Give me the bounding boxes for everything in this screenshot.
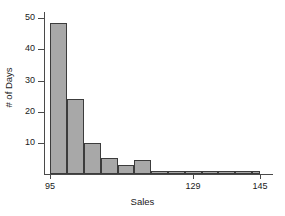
x-axis-line <box>44 174 273 175</box>
y-tick-label: 40 <box>25 43 35 54</box>
histogram-bar <box>151 171 168 174</box>
histogram-bar <box>252 171 260 174</box>
y-axis-tick: 40 <box>38 49 44 50</box>
y-axis-tick: 10 <box>38 143 44 144</box>
y-axis-line <box>44 12 45 175</box>
histogram-bar <box>218 171 235 174</box>
y-tick-label: 10 <box>25 137 35 148</box>
histogram-bar <box>67 99 84 174</box>
histogram-bar <box>84 143 101 174</box>
histogram-bar <box>202 171 219 174</box>
histogram-bar <box>118 165 135 174</box>
x-tick-label: 95 <box>45 181 55 192</box>
x-axis-title: Sales <box>0 196 285 207</box>
histogram-bar <box>168 171 185 174</box>
histogram-figure: 50 40 30 20 10 95 129 145 Sales # of Day… <box>0 0 285 216</box>
y-tick-label: 20 <box>25 106 35 117</box>
histogram-bar <box>134 160 151 174</box>
y-axis-tick: 50 <box>38 18 44 19</box>
y-tick-label: 30 <box>25 75 35 86</box>
x-tick-label: 145 <box>252 181 267 192</box>
x-tick-label: 129 <box>185 181 200 192</box>
x-axis-tick <box>193 174 194 179</box>
x-axis-tick <box>260 174 261 179</box>
y-axis-title: # of Days <box>3 58 14 118</box>
histogram-bar <box>235 171 252 174</box>
histogram-bar <box>101 158 118 174</box>
histogram-bar <box>50 23 67 174</box>
x-axis-tick <box>50 174 51 179</box>
y-axis-tick: 30 <box>38 81 44 82</box>
histogram-bar <box>185 171 202 174</box>
y-axis-tick: 20 <box>38 112 44 113</box>
y-tick-label: 50 <box>25 12 35 23</box>
